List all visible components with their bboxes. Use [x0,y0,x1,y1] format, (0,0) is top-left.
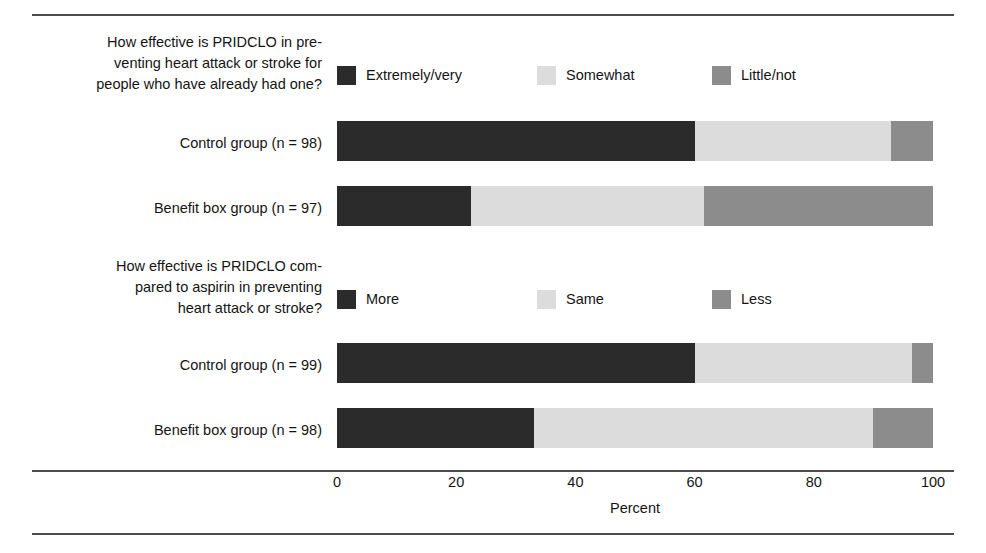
legend-swatch-light-icon [537,290,556,309]
bar-row-benefit-1 [337,186,933,226]
bar-segment-somewhat [471,186,703,226]
panel2-question-line3: heart attack or stroke? [0,298,322,319]
panel1-legend: Extremely/very Somewhat Little/not [337,64,937,86]
panel1-question-line3: people who have already had one? [0,74,322,95]
legend-swatch-medium-icon [712,66,731,85]
x-tick-40: 40 [567,474,583,490]
axis-rule [32,470,954,472]
legend-label-extremely-very: Extremely/very [366,67,462,83]
legend-label-more: More [366,291,399,307]
panel2-question: How effective is PRIDCLO com- pared to a… [0,256,322,319]
legend-swatch-medium-icon [712,290,731,309]
panel1-question-line2: venting heart attack or stroke for [0,53,322,74]
bar-row-benefit-2 [337,408,933,448]
legend-swatch-light-icon [537,66,556,85]
legend-label-same: Same [566,291,604,307]
row-label-control-2: Control group (n = 99) [0,355,322,376]
legend-item-more: More [337,290,537,309]
top-rule [32,14,954,16]
panel1-question-line1: How effective is PRIDCLO in pre- [0,32,322,53]
legend-item-less: Less [712,290,772,309]
bar-segment-less [873,408,933,448]
legend-swatch-dark-icon [337,66,356,85]
row-label-benefit-1: Benefit box group (n = 97) [0,198,322,219]
x-tick-100: 100 [921,474,945,490]
bar-segment-somewhat [695,121,892,161]
row-label-control-1: Control group (n = 98) [0,133,322,154]
bar-segment-same [534,408,874,448]
panel2-question-line1: How effective is PRIDCLO com- [0,256,322,277]
legend-item-same: Same [537,290,712,309]
x-tick-20: 20 [448,474,464,490]
legend-label-less: Less [741,291,772,307]
bar-segment-more [337,343,695,383]
x-tick-80: 80 [806,474,822,490]
stacked-bar-chart-figure: How effective is PRIDCLO in pre- venting… [0,0,986,553]
legend-label-somewhat: Somewhat [566,67,635,83]
bar-row-control-2 [337,343,933,383]
bottom-rule [32,533,954,535]
bar-segment-little-not [891,121,933,161]
bar-segment-extremely-very [337,121,695,161]
panel2-question-line2: pared to aspirin in preventing [0,277,322,298]
legend-item-somewhat: Somewhat [537,66,712,85]
legend-item-little-not: Little/not [712,66,796,85]
x-tick-0: 0 [333,474,341,490]
bar-segment-extremely-very [337,186,471,226]
x-tick-60: 60 [687,474,703,490]
panel1-question: How effective is PRIDCLO in pre- venting… [0,32,322,95]
bar-segment-more [337,408,534,448]
legend-item-extremely-very: Extremely/very [337,66,537,85]
legend-swatch-dark-icon [337,290,356,309]
x-axis: 0 20 40 60 80 100 [337,474,933,494]
bar-segment-less [912,343,933,383]
bar-segment-little-not [704,186,933,226]
row-label-benefit-2: Benefit box group (n = 98) [0,420,322,441]
bar-row-control-1 [337,121,933,161]
legend-label-little-not: Little/not [741,67,796,83]
x-axis-title: Percent [337,500,933,516]
panel2-legend: More Same Less [337,288,937,310]
bar-segment-same [695,343,913,383]
